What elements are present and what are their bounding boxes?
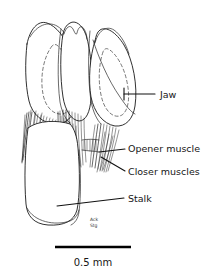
stalk-outline (25, 121, 79, 225)
figure-canvas: Jaw Opener muscle Closer muscles Stalk A… (0, 0, 211, 274)
jaw-right-outline (90, 29, 136, 126)
scale-bar-group: 0.5 mm (55, 247, 131, 268)
label-jaw: Jaw (159, 89, 177, 100)
label-opener-muscle: Opener muscle (128, 143, 200, 154)
artist-signature: Ack Stg (90, 217, 98, 228)
label-closer-muscles: Closer muscles (128, 166, 200, 177)
scale-bar-caption: 0.5 mm (74, 257, 113, 268)
label-stalk: Stalk (128, 193, 152, 204)
labels-group: Jaw Opener muscle Closer muscles Stalk (128, 89, 200, 204)
stalk-group (25, 121, 81, 225)
signature-line-1: Ack (90, 217, 98, 222)
leader-line-opener-muscle (99, 149, 125, 152)
signature-line-2: Stg (90, 223, 98, 228)
pedicellaria-figure: Jaw Opener muscle Closer muscles Stalk A… (0, 0, 211, 274)
jaw-group (26, 22, 136, 126)
